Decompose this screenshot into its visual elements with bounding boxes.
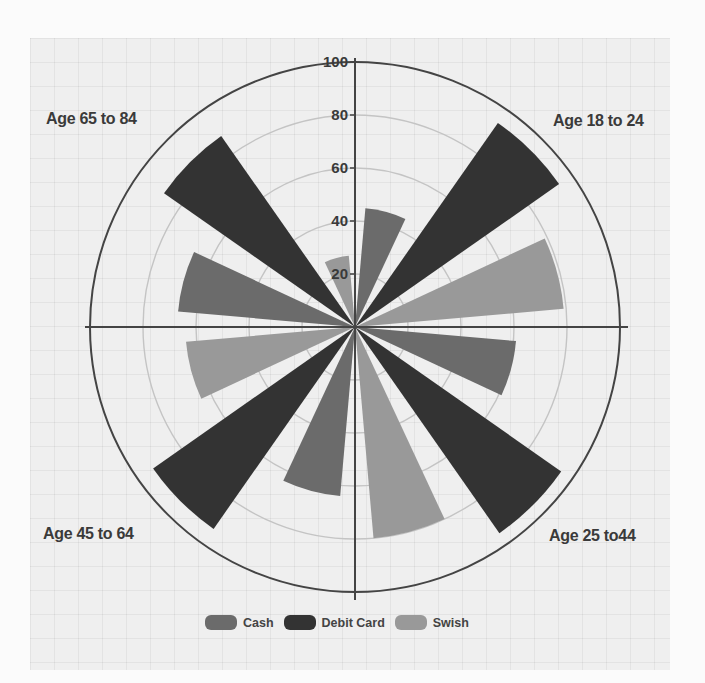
swish-swatch-icon	[395, 615, 427, 630]
tick-label: 80	[331, 106, 348, 123]
tick-label: 20	[331, 265, 348, 282]
legend-label-cash: Cash	[243, 616, 274, 630]
radial-ticks: 20406080100	[323, 53, 355, 282]
legend-item-debit-card[interactable]: Debit Card	[284, 615, 385, 630]
data-wedges	[153, 123, 563, 538]
label-age-45-64: Age 45 to 64	[43, 525, 134, 543]
tick-label: 40	[331, 212, 348, 229]
cash-swatch-icon	[205, 615, 237, 630]
legend-label-swish: Swish	[433, 616, 469, 630]
debit-card-swatch-icon	[284, 615, 316, 630]
legend-item-cash[interactable]: Cash	[205, 615, 274, 630]
legend-item-swish[interactable]: Swish	[395, 615, 469, 630]
legend: Cash Debit Card Swish	[205, 615, 469, 630]
tick-label: 100	[323, 53, 348, 70]
label-age-25-44: Age 25 to44	[549, 527, 636, 545]
polar-bar-chart: 20406080100	[0, 0, 705, 683]
legend-label-debit-card: Debit Card	[322, 616, 385, 630]
tick-label: 60	[331, 159, 348, 176]
label-age-65-84: Age 65 to 84	[46, 110, 137, 128]
label-age-18-24: Age 18 to 24	[553, 112, 644, 130]
